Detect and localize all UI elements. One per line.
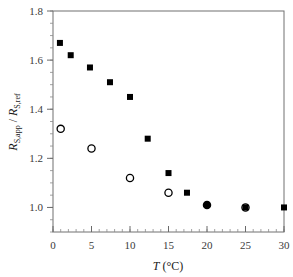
y-axis-ticks: 1.01.21.41.61.8 [29,5,53,232]
y-axis-label: RS,app / RS,ref [6,93,22,152]
y-tick-label: 1.8 [29,5,43,17]
square-marker [184,190,190,196]
circle-marker [165,189,172,196]
plot-border [53,11,284,232]
square-marker [107,79,113,85]
x-tick-label: 5 [89,239,95,251]
x-tick-label: 30 [279,239,291,251]
data-points [57,40,287,211]
plot-frame [53,11,284,232]
x-tick-label: 10 [125,239,137,251]
circle-marker [88,145,95,152]
square-marker [281,204,287,210]
x-tick-label: 15 [163,239,175,251]
square-marker [57,40,63,46]
square-marker [145,136,151,142]
square-marker [68,52,74,58]
y-label-sub2: S,ref [13,93,22,109]
y-tick-label: 1.2 [29,152,43,164]
y-tick-label: 1.0 [29,201,43,213]
y-label-sub1: S,app [13,125,22,143]
square-marker [87,64,93,70]
y-label-sep: / [6,116,20,125]
y-tick-label: 1.6 [29,54,43,66]
scatter-chart: 1.01.21.41.61.8 051015202530 T (°C) RS,a… [0,0,293,277]
circle-marker [126,174,133,181]
x-axis-label: T (°C) [153,259,183,273]
x-tick-label: 25 [240,239,252,251]
square-marker [166,170,172,176]
x-tick-label: 20 [202,239,214,251]
x-axis-label-unit: (°C) [159,259,183,273]
y-tick-label: 1.4 [29,103,43,115]
x-tick-label: 0 [50,239,56,251]
circle-marker [57,125,64,132]
x-axis-ticks: 051015202530 [50,226,290,251]
square-marker [127,94,133,100]
